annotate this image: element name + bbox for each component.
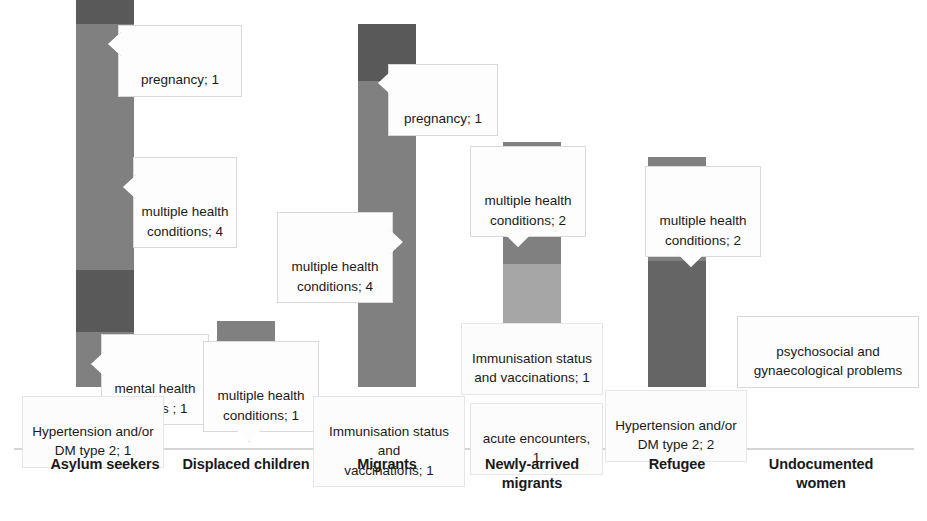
callout-asylum-multiple-health-conditions: multiple health conditions; 4	[133, 157, 237, 248]
bar-segment-immunisation-status-and-vaccinations[interactable]	[358, 332, 416, 387]
plot-area: pregnancy; 1 multiple health conditions;…	[0, 0, 927, 460]
category-label-text: Newly-arrived migrants	[485, 456, 579, 491]
category-label-text: Asylum seekers	[50, 456, 159, 472]
category-label-text: Migrants	[357, 456, 417, 472]
stacked-bar-chart: pregnancy; 1 multiple health conditions;…	[0, 0, 927, 521]
callout-text: pregnancy; 1	[404, 111, 482, 126]
category-label-text: Undocumented women	[769, 456, 873, 491]
callout-text: multiple health conditions; 4	[141, 204, 228, 239]
callout-displaced-children-multiple-health-conditions: multiple health conditions; 1	[203, 341, 319, 432]
category-label-text: Displaced children	[182, 456, 309, 472]
category-label-displaced-children: Displaced children	[163, 455, 329, 474]
callout-text: Hypertension and/or DM type 2; 1	[32, 424, 154, 459]
callout-refugee-hypertension: Hypertension and/or DM type 2; 2	[605, 390, 747, 462]
callout-text: Immunisation status and vaccinations; 1	[472, 351, 592, 386]
callout-migrants-multiple-health-conditions: multiple health conditions; 4	[277, 212, 393, 303]
callout-refugee-multiple-health-conditions: multiple health conditions; 2	[645, 166, 761, 257]
callout-text: multiple health conditions; 2	[659, 213, 746, 248]
category-label-undocumented-women: Undocumented women	[748, 455, 894, 493]
category-label-migrants: Migrants	[326, 455, 448, 474]
callout-pointer-icon	[236, 429, 262, 442]
bar-segment-pregnancy[interactable]	[76, 0, 134, 24]
callout-text: multiple health conditions; 4	[291, 259, 378, 294]
category-label-text: Refugee	[649, 456, 706, 472]
category-label-newly-arrived-migrants: Newly-arrived migrants	[457, 455, 607, 493]
callout-text: Hypertension and/or DM type 2; 2	[615, 418, 737, 453]
bar-segment-hypertension-dm-type-2[interactable]	[648, 261, 706, 387]
callout-asylum-pregnancy: pregnancy; 1	[118, 25, 242, 97]
callout-text: psychosocial and gynaecological problems	[754, 344, 903, 379]
callout-newly-arrived-multiple-health-conditions: multiple health conditions; 2	[470, 146, 586, 237]
category-label-asylum-seekers: Asylum seekers	[28, 455, 182, 474]
callout-text: pregnancy; 1	[141, 72, 219, 87]
bar-segment-mental-health-distress[interactable]	[76, 270, 134, 332]
callout-text: multiple health conditions; 1	[217, 388, 304, 423]
callout-migrants-pregnancy: pregnancy; 1	[388, 64, 498, 136]
callout-newly-arrived-immunisation: Immunisation status and vaccinations; 1	[461, 323, 603, 395]
bar-segment-immunisation-status-and-vaccinations[interactable]	[503, 264, 561, 326]
category-label-refugee: Refugee	[617, 455, 737, 474]
callout-undocumented-psychosocial: psychosocial and gynaecological problems	[737, 316, 919, 388]
callout-text: multiple health conditions; 2	[484, 193, 571, 228]
